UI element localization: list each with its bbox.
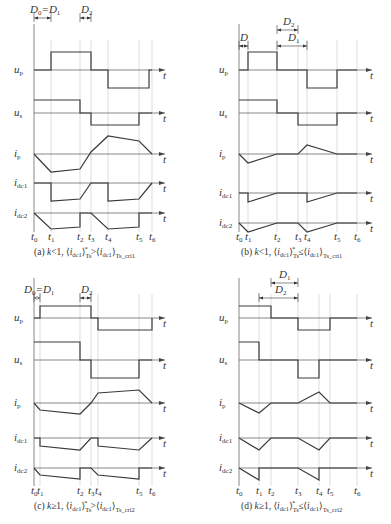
us-waveform xyxy=(34,100,152,125)
time-axis-label: t xyxy=(163,69,167,81)
panel-caption-d: (d) k≥1, ⟨idc1⟩Ts*≤⟨idc1⟩Ts_cri2 xyxy=(241,499,342,513)
ip-waveform xyxy=(34,390,152,414)
time-label-t3: t3 xyxy=(295,484,302,498)
panel-caption-a: (a) k<1, ⟨idc1⟩Ts*>⟨idc1⟩Ts_cri1 xyxy=(34,245,135,259)
time-label-t0: t0 xyxy=(31,230,38,244)
idc2-waveform xyxy=(34,468,152,479)
duty-label: D0=D1 xyxy=(29,3,61,17)
time-label-t6: t6 xyxy=(354,230,361,244)
signal-label-up: up xyxy=(14,63,24,77)
time-label-t2: t2 xyxy=(274,230,281,244)
time-label-t3: t3 xyxy=(88,230,95,244)
duty-label: D2 xyxy=(80,3,93,17)
time-axis-label: t xyxy=(370,359,374,371)
panel-d: tuptustiptidc1tidc2t0t1t2t3t4t5t6D1D2(d)… xyxy=(219,268,374,513)
signal-label-ip: ip xyxy=(219,396,226,410)
signal-label-idc1: idc1 xyxy=(14,176,28,190)
duty-label: D2 xyxy=(282,15,295,29)
duty-label: D0=D1 xyxy=(23,283,55,297)
time-label-t1: t1 xyxy=(48,230,55,244)
time-axis-label: t xyxy=(370,437,374,449)
waveform-figure: tuptustiptidc1tidc2t0t1t2t3t4t5t6D0=D1D2… xyxy=(0,0,391,524)
panel-caption-b: (b) k<1, ⟨idc1⟩Ts*≤⟨idc1⟩Ts_cri1 xyxy=(241,245,342,259)
time-axis-label: t xyxy=(370,192,374,204)
time-label-t6: t6 xyxy=(149,230,156,244)
signal-label-idc2: idc2 xyxy=(14,206,28,220)
signal-label-us: us xyxy=(14,106,23,120)
time-label-t0: t0 xyxy=(236,230,243,244)
duty-label: D2 xyxy=(80,283,93,297)
time-axis-label: t xyxy=(163,212,167,224)
signal-label-ip: ip xyxy=(219,147,226,161)
signal-label-idc1: idc1 xyxy=(14,431,28,445)
signal-label-idc1: idc1 xyxy=(219,186,233,200)
time-axis-label: t xyxy=(370,317,374,329)
signal-label-idc2: idc2 xyxy=(219,461,233,475)
time-label-t4: t4 xyxy=(316,484,323,498)
time-label-t6: t6 xyxy=(354,484,361,498)
panel-b: tuptustiptidc1tidc2t0t1t2t3t4t5t6DD2D1(b… xyxy=(219,15,374,259)
signal-label-ip: ip xyxy=(14,147,21,161)
idc2-waveform xyxy=(34,213,152,229)
panel-a: tuptustiptidc1tidc2t0t1t2t3t4t5t6D0=D1D2… xyxy=(14,3,167,259)
time-label-t1: t1 xyxy=(256,484,263,498)
panel-caption-c: (c) k≥1, ⟨idc1⟩Ts*>⟨idc1⟩Ts_cri2 xyxy=(34,499,135,513)
duty-label: D2 xyxy=(274,283,287,297)
signal-label-us: us xyxy=(219,106,228,120)
idc1-waveform xyxy=(34,438,152,450)
signal-label-us: us xyxy=(14,353,23,367)
time-label-t2: t2 xyxy=(268,484,275,498)
time-axis-label: t xyxy=(163,112,167,124)
time-axis-label: t xyxy=(163,437,167,449)
time-axis-label: t xyxy=(163,467,167,479)
time-axis-label: t xyxy=(370,153,374,165)
time-label-t5: t5 xyxy=(334,230,341,244)
signal-label-ip: ip xyxy=(14,396,21,410)
time-label-t3: t3 xyxy=(295,230,302,244)
time-label-t5: t5 xyxy=(327,484,334,498)
signal-label-idc2: idc2 xyxy=(219,216,233,230)
time-axis-label: t xyxy=(370,402,374,414)
time-axis-label: t xyxy=(163,359,167,371)
time-label-t0: t0 xyxy=(236,484,243,498)
time-label-t1: t1 xyxy=(37,484,44,498)
signal-label-us: us xyxy=(219,353,228,367)
duty-label: D xyxy=(239,31,248,43)
time-axis-label: t xyxy=(370,222,374,234)
time-label-t5: t5 xyxy=(136,484,143,498)
signal-label-up: up xyxy=(219,311,229,325)
time-axis-label: t xyxy=(163,182,167,194)
time-axis-label: t xyxy=(370,69,374,81)
time-label-t4: t4 xyxy=(95,484,102,498)
time-label-t3: t3 xyxy=(88,484,95,498)
time-axis-label: t xyxy=(163,317,167,329)
time-label-t6: t6 xyxy=(149,484,156,498)
signal-label-idc2: idc2 xyxy=(14,461,28,475)
signal-label-up: up xyxy=(14,311,24,325)
duty-label: D1 xyxy=(278,268,291,282)
time-label-t2: t2 xyxy=(77,484,84,498)
time-axis-label: t xyxy=(163,402,167,414)
panel-c: tuptustiptidc1tidc2t0t1t2t3t4t5t6D0=D1D2… xyxy=(14,278,167,513)
time-axis-label: t xyxy=(163,153,167,165)
signal-label-up: up xyxy=(219,63,229,77)
idc1-waveform xyxy=(34,183,152,201)
signal-label-idc1: idc1 xyxy=(219,431,233,445)
time-label-t4: t4 xyxy=(105,230,112,244)
time-label-t2: t2 xyxy=(77,230,84,244)
time-label-t5: t5 xyxy=(136,230,143,244)
time-axis-label: t xyxy=(370,112,374,124)
time-axis-label: t xyxy=(370,467,374,479)
